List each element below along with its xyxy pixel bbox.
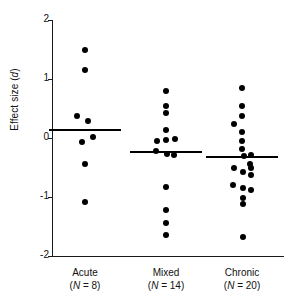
data-point: [163, 232, 169, 238]
x-axis-category-n-italic: N: [151, 280, 158, 291]
data-point: [85, 118, 91, 124]
y-axis-tick-label: -1: [29, 190, 49, 201]
y-axis-title-text: Effect size (: [9, 77, 20, 130]
data-point: [163, 88, 169, 94]
data-point: [163, 207, 169, 213]
y-axis-title-paren: ): [9, 68, 20, 71]
mean-line: [206, 156, 278, 158]
effect-size-scatter-figure: Effect size (d) 210-1-2 Acute(N = 8)Mixe…: [0, 0, 286, 308]
y-axis-tick-label: 1: [29, 72, 49, 83]
mean-line: [130, 151, 202, 153]
data-point: [163, 220, 169, 226]
data-point: [240, 201, 246, 207]
data-point: [163, 137, 169, 143]
data-point: [163, 110, 169, 116]
data-point: [79, 139, 85, 145]
data-point: [82, 199, 88, 205]
data-point: [239, 138, 245, 144]
y-axis-title-italic-d: d: [9, 72, 20, 78]
y-axis-title: Effect size (d): [9, 40, 20, 160]
data-point: [248, 165, 254, 171]
data-point: [231, 165, 237, 171]
mean-line: [49, 129, 121, 131]
data-point: [240, 169, 246, 175]
y-axis-tick-label: -2: [29, 249, 49, 260]
x-axis-category-n: (N = 8): [40, 279, 130, 292]
y-axis-tick-label: 0: [29, 131, 49, 142]
x-axis-category-label: Acute(N = 8): [40, 266, 130, 292]
data-point: [239, 113, 245, 119]
x-axis-category-n: (N = 20): [197, 279, 286, 292]
y-axis-line: [52, 20, 53, 256]
x-axis-category-n-italic: N: [73, 280, 80, 291]
data-point: [163, 184, 169, 190]
data-point: [82, 47, 88, 53]
data-point: [163, 127, 169, 133]
data-point: [239, 129, 245, 135]
data-point: [239, 146, 245, 152]
x-axis-line: [52, 256, 284, 257]
data-point: [154, 138, 160, 144]
x-axis-category-label: Chronic(N = 20): [197, 266, 286, 292]
data-point: [231, 121, 237, 127]
data-point: [240, 185, 246, 191]
data-point: [239, 85, 245, 91]
data-point: [248, 187, 254, 193]
data-point: [239, 103, 245, 109]
data-point: [248, 172, 254, 178]
x-axis-category-name: Chronic: [197, 266, 286, 279]
y-axis-tick-label: 2: [29, 13, 49, 24]
data-point: [230, 182, 236, 188]
data-point: [172, 136, 178, 142]
data-point: [82, 161, 88, 167]
data-point: [163, 103, 169, 109]
data-point: [82, 67, 88, 73]
data-point: [74, 113, 80, 119]
plot-area: 210-1-2 Acute(N = 8)Mixed(N = 14)Chronic…: [52, 20, 284, 256]
data-point: [240, 234, 246, 240]
data-point: [90, 134, 96, 140]
x-axis-category-n-italic: N: [227, 280, 234, 291]
x-axis-category-name: Acute: [40, 266, 130, 279]
